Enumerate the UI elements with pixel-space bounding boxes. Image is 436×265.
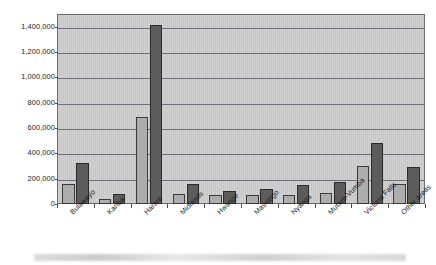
x-tick-mark — [131, 204, 132, 208]
bar — [62, 184, 75, 204]
y-axis: 0200,000400,000600,000800,0001,000,0001,… — [0, 14, 55, 204]
bar — [150, 25, 163, 204]
bar-group — [315, 14, 352, 204]
y-tick-label: 200,000 — [3, 174, 55, 183]
bar-group — [204, 14, 241, 204]
bar — [246, 195, 259, 204]
x-tick-mark — [204, 204, 205, 208]
y-tick-label: 400,000 — [3, 148, 55, 157]
y-tick-label: 1,400,000 — [3, 22, 55, 31]
bar-group — [94, 14, 131, 204]
caption-smudge — [34, 254, 406, 261]
bar — [173, 194, 186, 204]
x-tick-mark — [57, 204, 58, 208]
y-tick-label: 0 — [3, 199, 55, 208]
bar — [320, 193, 333, 204]
bar-group — [167, 14, 204, 204]
y-tick-label: 600,000 — [3, 123, 55, 132]
x-tick-mark — [388, 204, 389, 208]
x-tick-mark — [425, 204, 426, 208]
bar-group — [57, 14, 94, 204]
bar — [209, 195, 222, 204]
y-tick-label: 1,000,000 — [3, 72, 55, 81]
bar-group — [241, 14, 278, 204]
bar — [136, 117, 149, 204]
bar-chart: 0200,000400,000600,000800,0001,000,0001,… — [0, 0, 436, 265]
bar — [99, 199, 112, 204]
bar-group — [388, 14, 425, 204]
x-tick-mark — [94, 204, 95, 208]
bar-group — [351, 14, 388, 204]
bar — [283, 195, 296, 205]
y-tick-label: 1,200,000 — [3, 47, 55, 56]
x-tick-mark — [351, 204, 352, 208]
y-tick-label: 800,000 — [3, 98, 55, 107]
bar-group — [278, 14, 315, 204]
x-tick-mark — [241, 204, 242, 208]
bars-layer — [57, 14, 425, 204]
x-tick-mark — [315, 204, 316, 208]
x-tick-mark — [167, 204, 168, 208]
x-tick-mark — [278, 204, 279, 208]
bar-group — [131, 14, 168, 204]
